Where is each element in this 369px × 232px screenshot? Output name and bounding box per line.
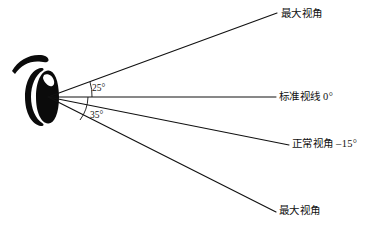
normal-ray [48,97,289,145]
upper-angle-label: 25° [92,83,105,94]
normal-ray-label: 正常视角 –15° [292,138,357,150]
lower-angle-label: 35° [90,110,103,121]
diagram-canvas [0,0,369,232]
max-lower-ray [48,97,276,212]
eyebrow-icon [12,55,49,74]
max-lower-ray-label: 最大视角 [279,205,320,217]
max-upper-ray-label: 最大视角 [281,8,322,20]
viewing-angle-diagram: 25° 35° 最大视角 标准视线 0° 正常视角 –15° 最大视角 [0,0,369,232]
max-upper-ray [48,13,277,97]
standard-ray-label: 标准视线 0° [279,91,333,103]
